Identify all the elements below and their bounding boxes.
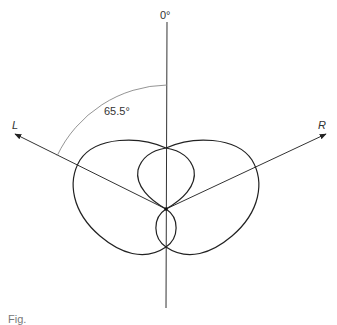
right-lobe bbox=[138, 140, 259, 254]
angle-arc bbox=[57, 85, 167, 156]
zero-axis bbox=[166, 22, 167, 308]
left-label: L bbox=[12, 119, 18, 131]
right-axis-arrow bbox=[166, 134, 326, 209]
origin-point bbox=[164, 207, 168, 211]
zero-label: 0° bbox=[160, 9, 171, 21]
figure-caption: Fig. bbox=[8, 313, 26, 325]
angle-label: 65.5° bbox=[104, 105, 130, 117]
left-lobe bbox=[73, 140, 194, 254]
right-label: R bbox=[318, 119, 326, 131]
left-axis-arrow bbox=[15, 134, 166, 209]
